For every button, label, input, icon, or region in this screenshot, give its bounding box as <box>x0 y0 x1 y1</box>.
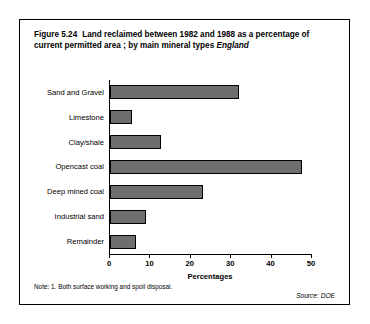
x-tick <box>149 254 150 258</box>
bar-row: Opencast coal <box>110 155 302 180</box>
bar <box>110 135 161 149</box>
bar <box>110 85 239 99</box>
x-tick-label: 50 <box>307 259 315 268</box>
figure-panel: Figure 5.24Land reclaimed between 1982 a… <box>19 19 350 305</box>
x-tick <box>230 254 231 258</box>
bar <box>110 235 136 249</box>
bar-row: Deep mined coal <box>110 179 203 204</box>
bar-row: Limestone <box>110 105 132 130</box>
category-label: Limestone <box>69 105 104 130</box>
bar <box>110 160 302 174</box>
x-axis-line <box>109 254 311 255</box>
x-tick-label: 20 <box>186 259 194 268</box>
figure-note: Note: 1. Both surface working and spoil … <box>34 283 172 290</box>
bar-chart-plot: Sand and GravelLimestoneClay/shaleOpenca… <box>109 80 311 254</box>
category-label: Deep mined coal <box>47 179 104 204</box>
x-tick-label: 40 <box>266 259 274 268</box>
x-tick-label: 0 <box>107 259 111 268</box>
x-tick <box>311 254 312 258</box>
bar <box>110 210 146 224</box>
category-label: Remainder <box>67 229 104 254</box>
figure-title: Figure 5.24Land reclaimed between 1982 a… <box>34 29 334 51</box>
bar <box>110 110 132 124</box>
bar-row: Clay/shale <box>110 130 161 155</box>
x-axis-label: Percentages <box>109 272 311 281</box>
figure-region: England <box>216 41 248 50</box>
bar-row: Remainder <box>110 229 136 254</box>
x-tick-label: 30 <box>226 259 234 268</box>
figure-number: Figure 5.24 <box>34 30 77 39</box>
x-tick <box>271 254 272 258</box>
x-tick-label: 10 <box>145 259 153 268</box>
bar-row: Industrial sand <box>110 204 146 229</box>
category-label: Clay/shale <box>69 130 104 155</box>
category-label: Sand and Gravel <box>47 80 104 105</box>
category-label: Industrial sand <box>55 204 104 229</box>
bar <box>110 185 203 199</box>
figure-source: Source: DOE <box>296 292 335 299</box>
x-tick <box>109 254 110 258</box>
bar-row: Sand and Gravel <box>110 80 239 105</box>
x-tick <box>190 254 191 258</box>
category-label: Opencast coal <box>55 155 104 180</box>
